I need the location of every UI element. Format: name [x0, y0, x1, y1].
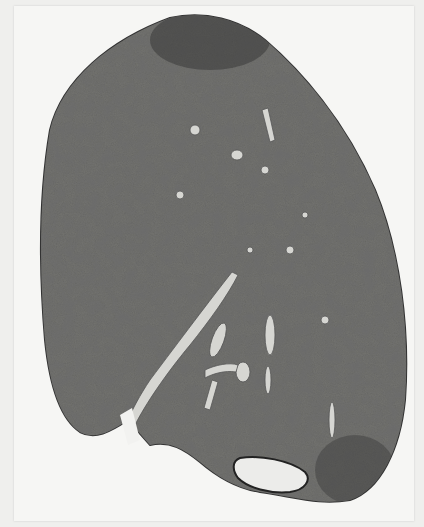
photo-frame [0, 0, 424, 527]
tissue-section [0, 0, 424, 527]
